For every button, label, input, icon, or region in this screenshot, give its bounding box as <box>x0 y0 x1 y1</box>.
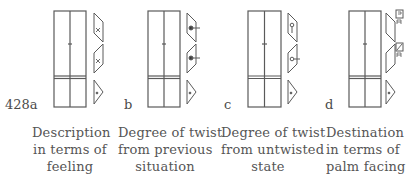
panel-label-a: 428a <box>5 97 38 112</box>
direction-symbol <box>94 80 103 104</box>
white-pin-icon <box>290 23 294 27</box>
panel-label-d: d <box>325 97 333 112</box>
staff-a <box>54 11 86 107</box>
panel-label-b: b <box>124 97 132 112</box>
staff-c <box>248 11 281 107</box>
symbols-a <box>94 13 103 104</box>
x-mark-icon <box>96 59 100 63</box>
panel-label-c: c <box>224 97 231 112</box>
dot-icon <box>189 92 191 94</box>
palm-hook-icon <box>397 53 401 57</box>
staff-b <box>148 11 180 107</box>
staff-d <box>349 11 381 107</box>
white-pin-icon <box>290 57 294 61</box>
caption-c: Degree of twist from untwisted state <box>221 124 315 175</box>
twist-symbol-lower <box>94 44 103 73</box>
twist-symbol-upper <box>94 13 103 42</box>
symbols-c <box>288 13 300 104</box>
palm-hook-icon <box>397 20 401 24</box>
symbols-b <box>187 13 200 104</box>
symbols-d <box>386 10 403 104</box>
caption-d: Destination in terms of palm facing <box>326 124 398 175</box>
dot-icon <box>290 92 292 94</box>
dot-icon <box>388 92 390 94</box>
caption-b: Degree of twist from previous situation <box>118 124 212 175</box>
dot-icon <box>96 92 98 94</box>
caption-a: Description in terms of feeling <box>32 124 108 175</box>
x-mark-icon <box>96 28 100 32</box>
